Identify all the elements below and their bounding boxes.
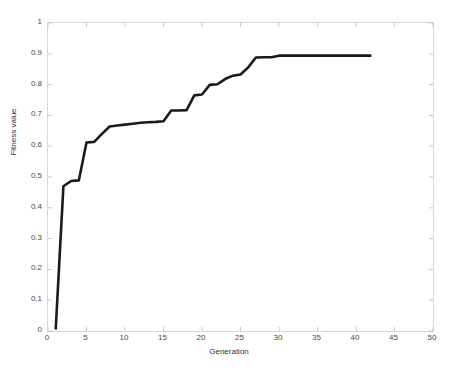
x-tick-label: 40 (343, 334, 367, 342)
x-tick-label: 15 (151, 334, 175, 342)
y-tick-label: 0 (0, 326, 42, 334)
x-tick-label: 35 (305, 334, 329, 342)
figure-canvas: Fitness value 00.10.20.30.40.50.60.70.80… (0, 0, 458, 377)
x-tick-label: 45 (382, 334, 406, 342)
x-tick-label: 5 (74, 334, 98, 342)
line-chart-svg (48, 23, 433, 331)
y-tick-label: 0.4 (0, 203, 42, 211)
x-tick-label: 25 (228, 334, 252, 342)
y-tick-label: 0.3 (0, 234, 42, 242)
y-tick-label: 0.9 (0, 49, 42, 57)
y-tick-label: 0.2 (0, 264, 42, 272)
x-tick-label: 30 (266, 334, 290, 342)
y-tick-label: 0.8 (0, 80, 42, 88)
axis-tick-marks (48, 23, 433, 331)
x-tick-label: 50 (420, 334, 444, 342)
y-tick-label: 0.6 (0, 141, 42, 149)
x-axis-label: Generation (0, 348, 458, 356)
y-tick-label: 1 (0, 18, 42, 26)
x-tick-label: 0 (35, 334, 59, 342)
series-line-best-fitness (56, 56, 372, 330)
plot-area (47, 22, 434, 332)
x-tick-label: 10 (112, 334, 136, 342)
y-tick-label: 0.5 (0, 172, 42, 180)
y-tick-label: 0.1 (0, 295, 42, 303)
x-tick-label: 20 (189, 334, 213, 342)
y-tick-label: 0.7 (0, 110, 42, 118)
